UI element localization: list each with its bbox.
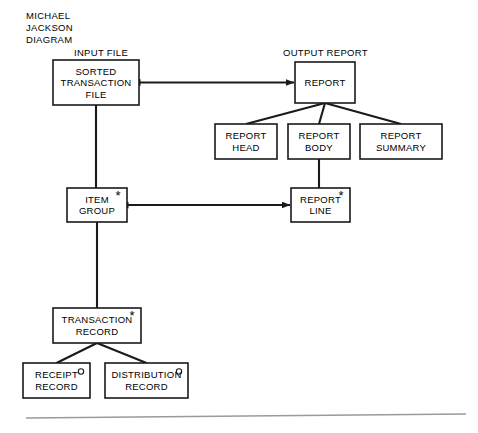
node-receipt-record[interactable]: RECEIPTRECORD	[23, 363, 90, 398]
node-label-line: RECORD	[35, 381, 78, 392]
connector-transaction-to-receipt	[57, 343, 98, 363]
node-label-line: TRANSACTION	[62, 314, 133, 325]
node-label-line: SUMMARY	[376, 142, 427, 153]
node-label-line: SORTED	[76, 66, 117, 77]
title-line-3: DIAGRAM	[26, 34, 72, 45]
title-line-2: JACKSON	[26, 22, 73, 33]
node-label-line: GROUP	[79, 205, 115, 216]
connector-report-to-head	[246, 103, 325, 124]
node-report-body[interactable]: REPORTBODY	[288, 124, 350, 159]
connector-report-to-summary	[325, 103, 401, 124]
diagram-title: MICHAEL JACKSON DIAGRAM	[26, 10, 73, 45]
connector-transaction-to-distribution	[97, 343, 147, 363]
footer-rule	[26, 414, 466, 418]
node-label-line: REPORT	[299, 130, 340, 141]
node-report[interactable]: REPORT	[295, 62, 355, 103]
node-label-line: RECORD	[125, 381, 168, 392]
node-label-line: LINE	[309, 205, 331, 216]
section-label-output-report: OUTPUT REPORT	[283, 47, 368, 58]
node-label-line: BODY	[305, 142, 333, 153]
node-label-line: FILE	[85, 89, 106, 100]
node-label-line: REPORT	[300, 194, 341, 205]
connector-report-to-body	[319, 103, 325, 124]
node-item-group[interactable]: ITEMGROUP*	[67, 188, 127, 222]
node-label-line: REPORT	[226, 130, 267, 141]
node-report-line[interactable]: REPORTLINE*	[291, 188, 350, 222]
node-report-summary[interactable]: REPORTSUMMARY	[360, 124, 442, 159]
node-label-line: DISTRIBUTION	[111, 369, 181, 380]
diagram-canvas: SORTEDTRANSACTIONFILEREPORTREPORTHEADREP…	[0, 0, 478, 433]
iteration-marker-icon: *	[129, 308, 134, 323]
node-label-line: HEAD	[232, 142, 259, 153]
iteration-marker-icon: *	[115, 188, 120, 203]
nodes-layer: SORTEDTRANSACTIONFILEREPORTREPORTHEADREP…	[23, 60, 442, 398]
title-line-1: MICHAEL	[26, 10, 70, 21]
node-report-head[interactable]: REPORTHEAD	[215, 124, 277, 159]
node-label-line: REPORT	[305, 77, 346, 88]
node-distribution-record[interactable]: DISTRIBUTIONRECORD	[105, 363, 188, 398]
node-label-line: TRANSACTION	[61, 77, 132, 88]
node-label-line: REPORT	[381, 130, 422, 141]
section-label-input-file: INPUT FILE	[74, 47, 128, 58]
node-label-line: RECORD	[76, 326, 119, 337]
michael-jackson-diagram: SORTEDTRANSACTIONFILEREPORTREPORTHEADREP…	[0, 0, 478, 433]
node-label-line: RECEIPT	[35, 369, 78, 380]
iteration-marker-icon: *	[338, 188, 343, 203]
node-sorted-transaction-file[interactable]: SORTEDTRANSACTIONFILE	[53, 60, 139, 105]
node-transaction-record[interactable]: TRANSACTIONRECORD*	[53, 308, 141, 343]
node-label-line: ITEM	[85, 194, 109, 205]
